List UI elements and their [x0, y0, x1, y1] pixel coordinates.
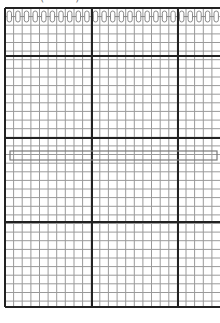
chain-stitch-row — [7, 11, 218, 22]
pattern-grid-chart — [0, 0, 220, 323]
minor-grid-lines — [5, 8, 220, 307]
major-grid-lines — [5, 8, 220, 307]
